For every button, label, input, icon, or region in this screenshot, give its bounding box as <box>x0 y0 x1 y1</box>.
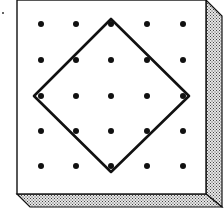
peg-dot <box>144 21 150 27</box>
peg-dot <box>108 163 114 169</box>
board-bottom-edge <box>17 194 222 207</box>
board-right-edge <box>206 0 222 207</box>
peg-dot <box>38 57 44 63</box>
peg-dot <box>73 128 79 134</box>
peg-dot <box>38 163 44 169</box>
geoboard-diagram <box>0 0 224 208</box>
peg-dot <box>180 163 186 169</box>
peg-dot <box>38 21 44 27</box>
peg-dot <box>180 57 186 63</box>
peg-dot <box>144 93 150 99</box>
stray-mark <box>2 12 4 14</box>
peg-dot <box>73 93 79 99</box>
peg-dot <box>144 163 150 169</box>
peg-dot <box>73 163 79 169</box>
peg-dot <box>108 128 114 134</box>
peg-dot <box>108 57 114 63</box>
peg-dot <box>180 21 186 27</box>
geoboard-svg <box>0 0 224 208</box>
peg-dot <box>38 128 44 134</box>
peg-dot <box>73 21 79 27</box>
peg-dot <box>180 128 186 134</box>
peg-dot <box>108 93 114 99</box>
peg-dot <box>38 93 44 99</box>
